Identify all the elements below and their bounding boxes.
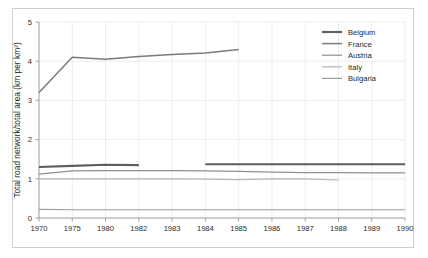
x-tick-label: 1984 [197, 224, 214, 233]
x-tick-label: 1987 [297, 224, 314, 233]
line-chart: 012345 197019751980198219831984198519861… [0, 0, 428, 258]
x-tick-label: 1985 [230, 224, 247, 233]
legend-label-bulgaria: Bulgaria [348, 74, 377, 83]
y-tick-label: 5 [28, 18, 32, 27]
x-tick-label: 1986 [263, 224, 280, 233]
x-tick-label: 1990 [397, 224, 414, 233]
chart-legend: BelgiumFranceAustriaItalyBulgaria [322, 28, 377, 83]
x-tick-label: 1989 [363, 224, 380, 233]
chart-figure: 012345 197019751980198219831984198519861… [0, 0, 428, 258]
series-line-belgium [39, 165, 139, 167]
y-axis-tick-labels: 012345 [28, 18, 39, 223]
series-line-austria [39, 171, 405, 175]
legend-label-austria: Austria [348, 51, 372, 60]
x-tick-label: 1982 [130, 224, 147, 233]
legend-label-belgium: Belgium [348, 28, 375, 37]
x-tick-label: 1975 [64, 224, 81, 233]
y-tick-label: 3 [28, 96, 32, 105]
legend-label-france: France [348, 40, 372, 49]
y-axis-title-text: Total road network/total area (km per km… [12, 42, 22, 198]
y-tick-label: 1 [28, 175, 32, 184]
y-tick-label: 2 [28, 135, 32, 144]
x-tick-label: 1988 [330, 224, 347, 233]
x-tick-label: 1983 [164, 224, 181, 233]
y-tick-label: 0 [28, 214, 32, 223]
y-tick-label: 4 [28, 57, 32, 66]
x-axis-tick-labels: 1970197519801982198319841985198619871988… [31, 218, 414, 233]
legend-label-italy: Italy [348, 63, 362, 72]
x-tick-label: 1970 [31, 224, 48, 233]
series-line-italy [39, 179, 338, 180]
x-tick-label: 1980 [97, 224, 114, 233]
y-axis-title: Total road network/total area (km per km… [12, 42, 22, 198]
